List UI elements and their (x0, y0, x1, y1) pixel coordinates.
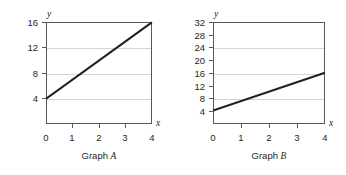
ytick-label-a-16: 16 (14, 18, 38, 28)
caption-a-letter: A (111, 151, 117, 161)
ytick-mark-b-32 (209, 22, 213, 23)
xtick-label-b-4: 4 (315, 133, 335, 143)
ytick-mark-b-28 (209, 35, 213, 36)
caption-graph-b: Graph B (213, 150, 325, 162)
xtick-label-b-1: 1 (231, 133, 251, 143)
ytick-label-b-20: 20 (181, 56, 205, 66)
two-graph-figure: 16 12 8 4 0 1 2 3 4 y x Graph A (0, 0, 346, 175)
ytick-label-b-8: 8 (181, 94, 205, 104)
xtick-mark-a-1 (72, 124, 73, 128)
ytick-mark-b-24 (209, 47, 213, 48)
ytick-label-a-12: 12 (14, 43, 38, 53)
ytick-mark-a-4 (42, 98, 46, 99)
ytick-label-a-4: 4 (14, 94, 38, 104)
ytick-label-b-32: 32 (181, 18, 205, 28)
xtick-mark-b-1 (241, 124, 242, 128)
graph-panel-b: 32 28 24 20 16 12 8 4 0 1 2 3 4 y x Grap… (173, 0, 346, 175)
y-axis-label-b: y (214, 10, 218, 20)
xtick-label-b-0: 0 (203, 133, 223, 143)
ytick-label-b-24: 24 (181, 43, 205, 53)
graph-panel-a: 16 12 8 4 0 1 2 3 4 y x Graph A (0, 0, 173, 175)
xtick-mark-b-3 (297, 124, 298, 128)
plot-area-a (46, 22, 152, 124)
x-axis-label-b: x (329, 119, 333, 129)
plot-area-b (213, 22, 325, 124)
data-line-b (214, 73, 324, 110)
ytick-mark-a-8 (42, 73, 46, 74)
ytick-mark-b-4 (209, 111, 213, 112)
ytick-label-b-28: 28 (181, 31, 205, 41)
data-line-a (47, 23, 151, 98)
ytick-mark-b-16 (209, 73, 213, 74)
ytick-mark-b-8 (209, 98, 213, 99)
caption-b-letter: B (281, 151, 287, 161)
ytick-mark-b-20 (209, 60, 213, 61)
xtick-label-a-0: 0 (36, 133, 56, 143)
xtick-mark-b-2 (269, 124, 270, 128)
ytick-label-b-4: 4 (181, 107, 205, 117)
caption-graph-a: Graph A (46, 150, 152, 162)
ytick-label-b-12: 12 (181, 82, 205, 92)
ytick-mark-a-12 (42, 47, 46, 48)
ytick-mark-b-12 (209, 86, 213, 87)
xtick-label-b-2: 2 (259, 133, 279, 143)
xtick-label-a-1: 1 (62, 133, 82, 143)
caption-b-prefix: Graph (252, 150, 278, 161)
xtick-label-a-3: 3 (115, 133, 135, 143)
x-axis-label-a: x (156, 119, 160, 129)
data-line-svg-b (214, 23, 324, 123)
ytick-mark-a-16 (42, 22, 46, 23)
data-line-svg-a (47, 23, 151, 123)
xtick-mark-a-2 (99, 124, 100, 128)
caption-a-prefix: Graph (82, 150, 108, 161)
xtick-label-a-4: 4 (142, 133, 162, 143)
xtick-mark-a-3 (125, 124, 126, 128)
y-axis-label-a: y (47, 10, 51, 20)
xtick-label-a-2: 2 (89, 133, 109, 143)
ytick-label-a-8: 8 (14, 69, 38, 79)
xtick-label-b-3: 3 (287, 133, 307, 143)
ytick-label-b-16: 16 (181, 69, 205, 79)
